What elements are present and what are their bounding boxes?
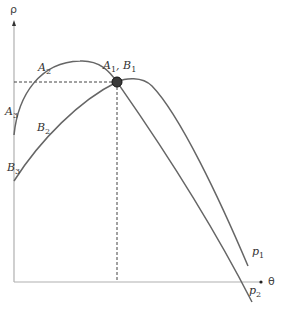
label-b3: B3: [7, 162, 20, 176]
label-p1: p1: [252, 246, 264, 260]
y-axis-label: ρ: [10, 4, 17, 15]
label-b2: B2: [37, 122, 50, 136]
x-axis-label: θ: [268, 276, 275, 287]
x-axis-arrow-icon: [259, 280, 262, 283]
curve-b-p1: [14, 79, 248, 266]
intersection-point: [112, 77, 122, 87]
diagram-canvas: [0, 0, 284, 312]
label-a1-b1: A1, B1: [103, 60, 136, 74]
label-a3: A3: [5, 106, 18, 120]
y-axis-arrow-icon: [12, 20, 16, 26]
curve-a-p2: [14, 61, 252, 302]
label-p2: p2: [249, 285, 261, 299]
label-a2: A2: [38, 62, 51, 76]
